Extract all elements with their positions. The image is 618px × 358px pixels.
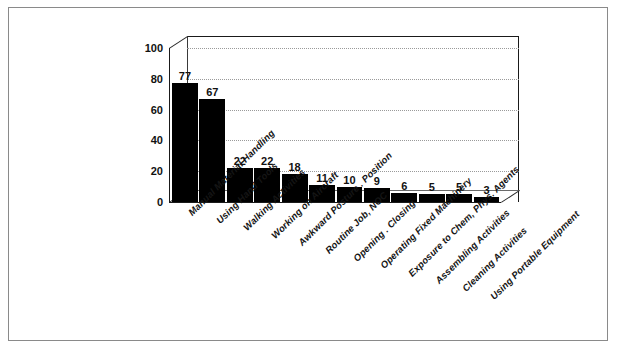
x-axis-label-11: Cleaning Activities xyxy=(460,225,529,294)
y-tick-label-80: 80 xyxy=(151,73,169,85)
bar-value-label: 67 xyxy=(206,86,218,98)
x-axis-category-labels: Manual Material HandlingUsing Hand Tools… xyxy=(169,204,589,354)
bar-rect[interactable] xyxy=(172,83,198,202)
bar-value-label: 9 xyxy=(374,175,380,187)
y-tick-label-60: 60 xyxy=(151,104,169,116)
y-axis-line xyxy=(169,48,170,202)
y-tick-label-100: 100 xyxy=(145,42,169,54)
bar-9[interactable]: 6 xyxy=(391,177,417,202)
x-axis-label-7: Opening . Closing xyxy=(351,197,417,263)
bar-1[interactable]: 77 xyxy=(172,67,198,202)
bar-value-label: 5 xyxy=(429,181,435,193)
y-tick-label-40: 40 xyxy=(151,134,169,146)
bar-value-label: 6 xyxy=(401,180,407,192)
bar-value-label: 77 xyxy=(179,70,191,82)
chart-screenshot: 020406080100 7767222218111096553 Manual … xyxy=(0,0,618,358)
y-tick-label-20: 20 xyxy=(151,165,169,177)
figure-frame: 020406080100 7767222218111096553 Manual … xyxy=(8,7,608,341)
y-tick-label-0: 0 xyxy=(157,196,169,208)
